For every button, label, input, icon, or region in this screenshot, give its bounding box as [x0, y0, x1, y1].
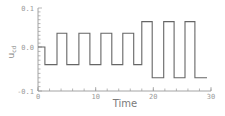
x-axis-title: Time [112, 98, 137, 109]
x-tick-label: 0 [36, 93, 40, 101]
y-axis-title: ucd [6, 45, 17, 58]
y-tick-label: -0.1 [17, 88, 34, 96]
chart: 0.10.0-0.10102030 Time ucd [0, 0, 225, 116]
svg-text:ucd: ucd [6, 45, 17, 58]
y-tick-label: 0.0 [21, 44, 34, 52]
y-tick-label: 0.1 [21, 5, 34, 13]
x-tick-label: 10 [91, 93, 99, 101]
x-tick-label: 20 [149, 93, 157, 101]
x-tick-label: 30 [207, 93, 215, 101]
waveform-line [38, 22, 207, 78]
